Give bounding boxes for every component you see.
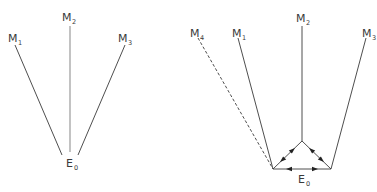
label-m1-sub: 1	[242, 34, 246, 42]
label-m4-sub: 4	[200, 34, 204, 42]
label-m2-sub: 2	[306, 19, 310, 27]
label-e0-sub: 0	[74, 164, 78, 172]
right-diagram: M 4 M 1 M 2 M 3 E 0	[190, 12, 376, 188]
label-e0: E	[298, 173, 305, 186]
left-diagram: M 1 M 2 M 3 E 0	[8, 11, 132, 172]
label-m3: M	[118, 32, 128, 45]
label-m2: M	[296, 12, 306, 25]
edge-m3-e0	[78, 45, 125, 155]
label-m3-sub: 3	[128, 39, 132, 47]
label-m4: M	[190, 27, 200, 40]
label-m3: M	[362, 27, 372, 40]
label-m2: M	[62, 11, 72, 24]
label-e0: E	[66, 157, 73, 170]
edge-m1-e0	[238, 38, 273, 169]
diagram-canvas: M 1 M 2 M 3 E 0 M 4 M	[0, 0, 377, 192]
e0-triangle	[273, 141, 331, 171]
label-m1: M	[8, 32, 18, 45]
edge-m4-e0-dashed	[198, 38, 273, 169]
label-e0-sub: 0	[306, 180, 310, 188]
label-m3-sub: 3	[372, 34, 376, 42]
arrow-icon	[286, 167, 292, 171]
arrow-icon	[312, 167, 318, 171]
label-m2-sub: 2	[72, 18, 76, 26]
label-m1-sub: 1	[18, 39, 22, 47]
label-m1: M	[232, 27, 242, 40]
edge-m3-e0	[331, 38, 366, 169]
edge-m1-e0	[15, 45, 62, 155]
